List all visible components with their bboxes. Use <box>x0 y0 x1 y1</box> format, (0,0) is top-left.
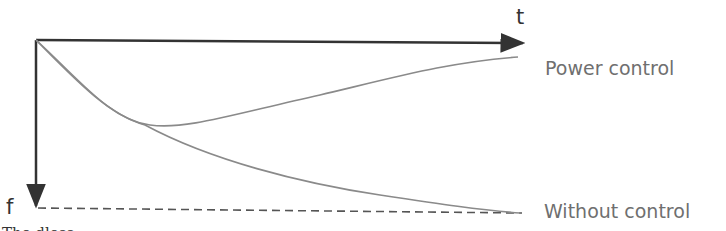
without-control-label: Without control <box>544 200 690 222</box>
t-axis-label: t <box>516 5 524 29</box>
power-control-curve <box>36 40 518 126</box>
diagram-canvas <box>0 0 726 231</box>
f-axis-label: f <box>6 195 13 219</box>
power-control-label: Power control <box>545 57 674 79</box>
caption-partial: The dloss... <box>2 224 88 231</box>
t-axis <box>36 40 523 43</box>
asymptote-dashed-line <box>38 208 522 213</box>
